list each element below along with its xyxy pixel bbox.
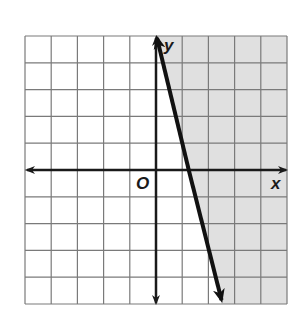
- x-axis-label: x: [270, 174, 282, 193]
- y-axis-label: y: [163, 36, 175, 55]
- origin-label: O: [136, 174, 149, 193]
- coordinate-graph: y x O: [0, 0, 298, 319]
